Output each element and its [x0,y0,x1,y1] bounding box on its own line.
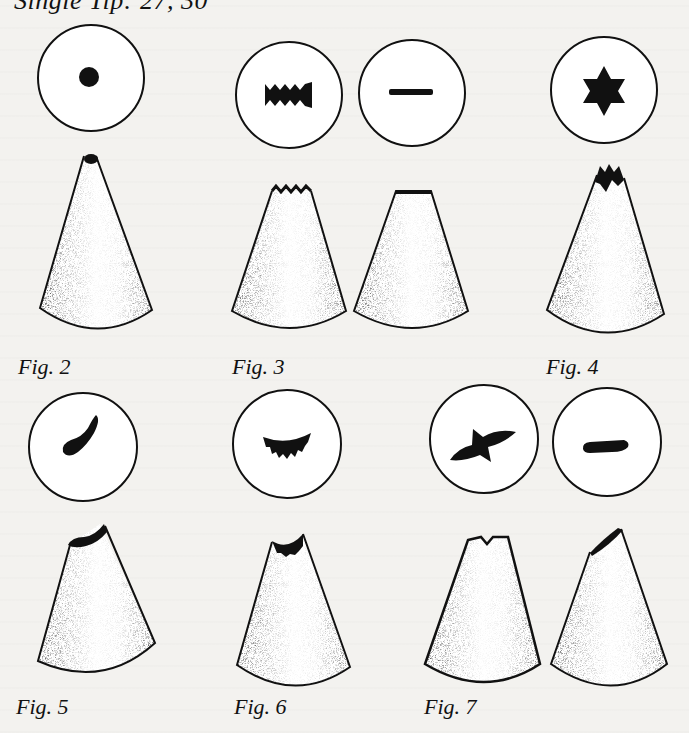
fig2-cone [40,154,152,329]
fig7a-opening-circle [430,385,538,493]
round-hole-icon [79,67,99,87]
fig7b-opening-circle [553,388,661,496]
fig3b-opening-circle [359,40,465,146]
fig7a-cone [425,537,540,682]
fig5-cone [38,524,155,672]
fig3a-opening-circle [236,42,342,148]
fig2-opening-circle [38,25,144,131]
fig3-caption: Fig. 3 [232,354,285,380]
fig6-cone [237,534,350,686]
fig4-cone [547,164,664,333]
fig4-caption: Fig. 4 [546,354,599,380]
fig6-opening-circle [233,390,341,498]
fig5-caption: Fig. 5 [16,694,69,720]
fig2-caption: Fig. 2 [18,354,71,380]
fig5-opening-circle [29,393,137,501]
fig6-caption: Fig. 6 [234,694,287,720]
fig7-caption: Fig. 7 [424,694,477,720]
fig4-opening-circle [551,37,657,143]
book-page: Single Tip: 27, 30 [0,0,689,733]
fig3a-cone [232,186,346,328]
fig3b-cone [354,191,468,328]
flat-line-opening-icon [389,89,433,95]
fig7b-cone [551,528,667,686]
